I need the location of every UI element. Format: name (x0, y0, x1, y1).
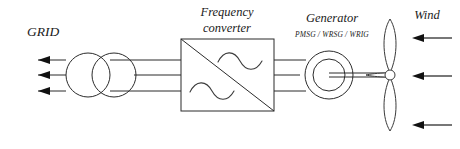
wind-turbine-rotor (366, 19, 396, 131)
wind-system-diagram: GRID Frequency converter Generator PMSG … (0, 0, 460, 149)
turbine-blade-lower (384, 77, 396, 131)
wind-arrow-1 (412, 34, 452, 42)
generator-types-label: PMSG / WRSG / WRIG (294, 30, 369, 39)
generator-label: Generator (306, 11, 358, 25)
converter-to-generator-bus (274, 60, 306, 91)
transformer-to-converter-bus (110, 60, 181, 91)
grid-arrow-1 (38, 56, 66, 64)
turbine-blade-upper (384, 19, 396, 73)
wind-arrow-2 (412, 72, 452, 80)
wind-arrows-group (412, 34, 452, 129)
frequency-converter-label-line2: converter (203, 21, 251, 35)
grid-arrow-2 (38, 71, 66, 79)
grid-arrows-group (38, 56, 66, 95)
diagram-canvas: GRID Frequency converter Generator PMSG … (0, 0, 460, 149)
rotor-hub (385, 70, 395, 80)
frequency-converter-symbol (181, 39, 274, 111)
generator-symbol (305, 51, 353, 99)
grid-arrow-3 (38, 87, 66, 95)
wind-label: Wind (414, 8, 440, 22)
grid-label: GRID (27, 24, 59, 39)
frequency-converter-label-line1: Frequency (200, 5, 254, 19)
wind-arrow-3 (412, 121, 452, 129)
